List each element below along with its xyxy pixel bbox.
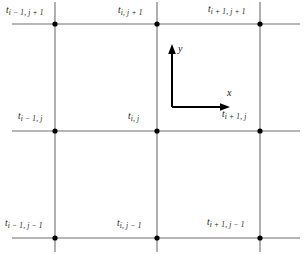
node-label-i-plus-1-j-plus-1: ti + 1, j + 1 — [208, 5, 246, 15]
grid-node-point — [257, 128, 262, 133]
node-label-subscript: i − 1, j — [21, 114, 43, 123]
node-label-i-plus-1-j-minus-1: ti + 1, j − 1 — [207, 218, 245, 228]
node-label-subscript: i, j — [131, 114, 140, 123]
y-axis-label: y — [178, 44, 182, 54]
node-label-i-j: ti, j — [128, 112, 139, 122]
grid-node-point — [52, 128, 57, 133]
node-label-subscript: i + 1, j — [225, 112, 247, 121]
grid-canvas — [0, 0, 304, 254]
node-label-subscript: i, j − 1 — [120, 221, 142, 230]
grid-node-point — [257, 235, 262, 240]
coordinate-axes-indicator — [168, 44, 230, 111]
node-label-subscript: i − 1, j + 1 — [9, 8, 44, 17]
y-axis-arrowhead — [168, 44, 176, 54]
node-label-i-minus-1-j-minus-1: ti − 1, j − 1 — [5, 219, 43, 229]
finite-difference-grid-figure: y x ti − 1, j + 1 ti, j + 1 ti + 1, j + … — [0, 0, 304, 254]
node-label-subscript: i − 1, j − 1 — [8, 221, 43, 230]
node-label-i-plus-1-j: ti + 1, j — [222, 110, 247, 120]
node-label-subscript: i + 1, j + 1 — [211, 7, 246, 16]
vertical-gridlines — [55, 2, 260, 252]
grid-node-point — [154, 235, 159, 240]
node-label-i-j-plus-1: ti, j + 1 — [118, 6, 143, 16]
grid-node-point — [52, 21, 57, 26]
x-axis-label: x — [227, 88, 231, 98]
node-label-subscript: i, j + 1 — [121, 8, 143, 17]
node-label-i-j-minus-1: ti, j − 1 — [117, 219, 142, 229]
node-label-subscript: i + 1, j − 1 — [210, 220, 245, 229]
node-label-i-minus-1-j: ti − 1, j — [18, 112, 43, 122]
grid-node-point — [154, 128, 159, 133]
grid-node-point — [154, 21, 159, 26]
node-label-i-minus-1-j-plus-1: ti − 1, j + 1 — [6, 6, 44, 16]
grid-node-point — [52, 235, 57, 240]
grid-node-point — [257, 21, 262, 26]
